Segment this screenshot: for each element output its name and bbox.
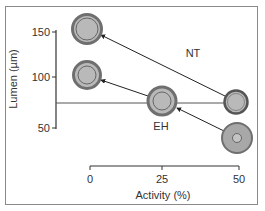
eh-arrow-lower — [177, 108, 224, 131]
vessel-eh-50 — [222, 123, 252, 153]
vessel-eh-25 — [148, 87, 176, 115]
y-tick-50: 50 — [38, 122, 50, 134]
x-tick-50: 50 — [233, 173, 245, 185]
x-tick-0: 0 — [87, 173, 93, 185]
lumen-activity-diagram: 150 100 50 Lumen (µm) 0 25 50 Activity (… — [0, 0, 265, 211]
y-axis: 150 100 50 Lumen (µm) — [7, 26, 56, 134]
x-axis: 0 25 50 Activity (%) — [87, 166, 245, 201]
eh-arrow-upper — [101, 80, 148, 96]
y-axis-label: Lumen (µm) — [7, 49, 19, 109]
y-tick-100: 100 — [32, 71, 50, 83]
vessel-eh-0 — [74, 62, 101, 89]
x-tick-25: 25 — [156, 173, 168, 185]
vessel-nt-0 — [73, 15, 102, 44]
x-axis-label: Activity (%) — [136, 189, 191, 201]
eh-label: EH — [153, 120, 168, 132]
vessel-nt-50 — [225, 91, 248, 114]
y-tick-150: 150 — [32, 26, 50, 38]
nt-label: NT — [186, 47, 201, 59]
